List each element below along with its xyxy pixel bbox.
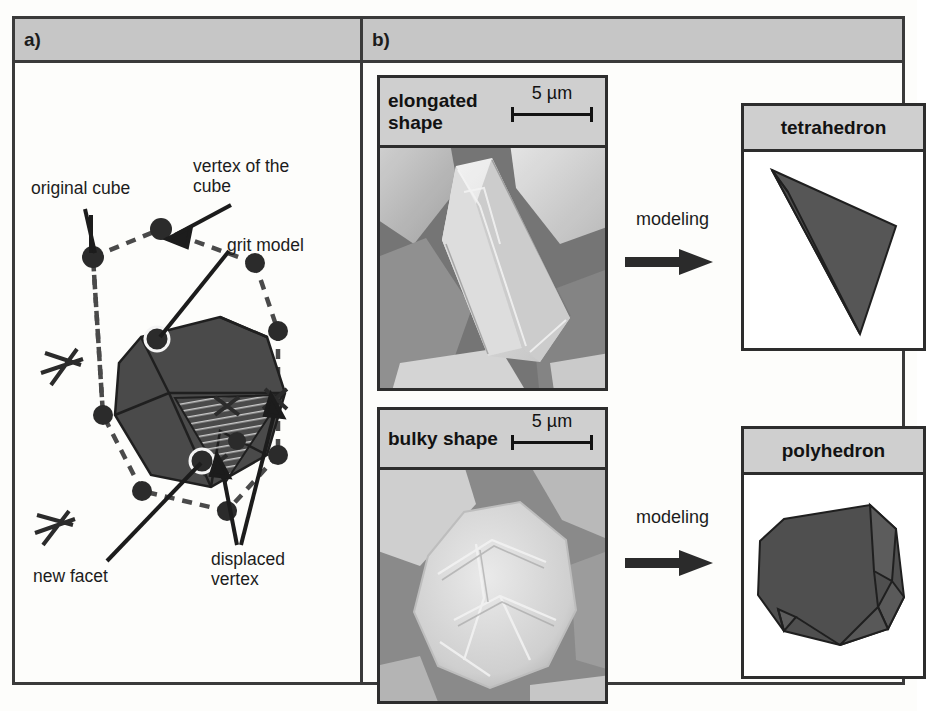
label-original-cube: original cube: [31, 179, 130, 199]
scalebar-cap-right: [590, 107, 593, 122]
scalebar-cap-left: [511, 435, 514, 450]
model-art-tetrahedron: [744, 152, 923, 348]
sem-caption-text-elongated: elongated shape: [388, 90, 478, 133]
scalebar-rule-bulky: [509, 435, 595, 449]
grit-model-diagram: [15, 63, 363, 685]
scalebar-bulky: 5 µm: [509, 412, 595, 449]
panel-b-header: b): [363, 19, 902, 63]
modeling-label-bulky: modeling: [636, 507, 709, 528]
modeling-arrow-bulky: [625, 550, 713, 576]
sem-box-elongated: elongated shape 5 µm: [377, 75, 608, 391]
scalebar-cap-left: [511, 107, 514, 122]
sem-caption-elongated: elongated shape 5 µm: [380, 78, 605, 148]
label-new-facet: new facet: [33, 567, 108, 587]
sem-box-bulky: bulky shape 5 µm: [377, 407, 608, 704]
scalebar-elongated: 5 µm: [509, 84, 595, 121]
label-displaced-vertex: displaced vertex: [211, 550, 285, 589]
figure-frame: a) b): [12, 16, 905, 685]
label-grit-model: grit model: [227, 236, 304, 256]
model-art-polyhedron: [744, 475, 923, 676]
scalebar-rule-elongated: [509, 107, 595, 121]
scalebar-cap-right: [590, 435, 593, 450]
model-caption-tetrahedron: tetrahedron: [744, 106, 923, 152]
sem-image-bulky: [380, 470, 605, 701]
scalebar-label-elongated: 5 µm: [509, 84, 595, 102]
model-caption-polyhedron: polyhedron: [744, 429, 923, 475]
panel-b-body: elongated shape 5 µm: [363, 63, 902, 682]
sem-caption-text-bulky: bulky shape: [388, 428, 498, 449]
panel-a-label: a): [24, 29, 41, 51]
label-vertex-of-the-cube: vertex of the cube: [193, 157, 289, 196]
panel-a-body: original cube vertex of the cube grit mo…: [15, 63, 363, 682]
model-box-tetrahedron: tetrahedron: [741, 103, 926, 351]
panel-header-row: a) b): [15, 19, 902, 63]
model-box-polyhedron: polyhedron: [741, 426, 926, 679]
scalebar-label-bulky: 5 µm: [509, 412, 595, 430]
panel-b-label: b): [372, 29, 390, 51]
panel-a-header: a): [15, 19, 363, 63]
modeling-label-elongated: modeling: [636, 209, 709, 230]
sem-caption-bulky: bulky shape 5 µm: [380, 410, 605, 470]
panel-body-row: original cube vertex of the cube grit mo…: [15, 63, 902, 682]
sem-image-elongated: [380, 148, 605, 388]
modeling-arrow-elongated: [625, 249, 713, 275]
